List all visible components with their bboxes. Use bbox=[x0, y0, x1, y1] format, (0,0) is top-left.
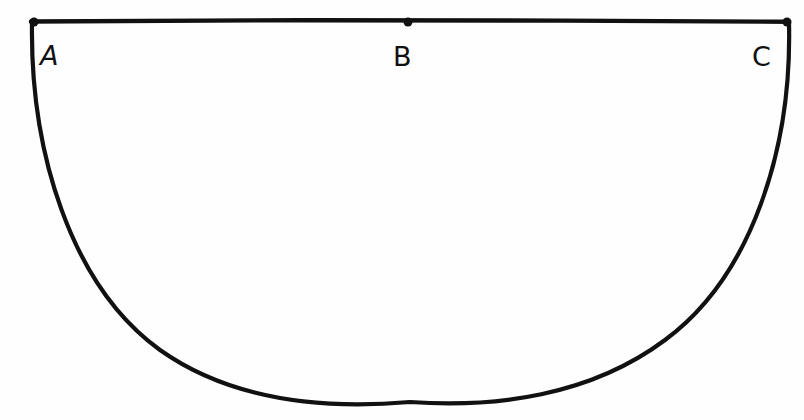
point-label-a: A bbox=[40, 42, 58, 69]
point-dot-a bbox=[30, 18, 39, 27]
point-label-c: C bbox=[752, 43, 771, 70]
semicircle-arc-path bbox=[32, 22, 789, 404]
point-label-b: B bbox=[393, 43, 412, 70]
point-dot-b bbox=[404, 18, 413, 27]
geometry-figure-canvas: A B C bbox=[0, 0, 804, 420]
point-dot-c bbox=[783, 18, 792, 27]
